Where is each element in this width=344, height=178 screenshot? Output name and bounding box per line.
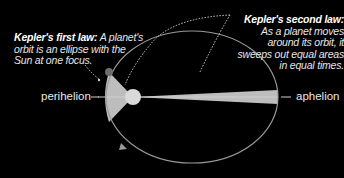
aphelion-label: aphelion <box>296 90 339 102</box>
planet <box>105 68 113 76</box>
first-law-heading: Kepler's first law: <box>14 31 97 43</box>
second-law-callout: Kepler's second law: As a planet moves a… <box>234 14 344 72</box>
sun <box>125 89 141 105</box>
second-law-heading: Kepler's second law: <box>244 13 344 25</box>
second-law-text: As a planet moves around its orbit, it s… <box>237 25 344 72</box>
first-law-leader <box>85 65 99 79</box>
first-law-callout: Kepler's first law: A planet's orbit is … <box>14 32 144 67</box>
perihelion-label: perihelion <box>41 90 91 102</box>
first-law-leader-end <box>98 79 100 81</box>
orbit-direction-arrow-icon <box>119 143 127 150</box>
second-law-leader-2 <box>200 15 230 72</box>
